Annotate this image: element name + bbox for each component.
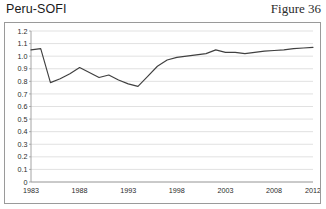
x-axis-tick-label: 2012	[305, 186, 320, 195]
figure-page: Peru-SOFI Figure 36 00.10.20.30.40.50.60…	[0, 0, 326, 209]
x-axis-tick-label: 1988	[72, 186, 88, 195]
x-axis-tick-labels: 1983198819931998200320082012	[23, 186, 320, 195]
x-axis-tick-label: 1998	[169, 186, 185, 195]
figure-header: Peru-SOFI Figure 36	[0, 0, 326, 22]
y-axis-tick-label: 0.9	[18, 64, 28, 73]
x-axis-tick-label: 1993	[120, 186, 136, 195]
series-line	[31, 47, 313, 86]
x-axis-tick-label: 2008	[266, 186, 282, 195]
y-axis-tick-labels: 00.10.20.30.40.50.60.70.80.91.01.11.2	[18, 27, 32, 187]
y-axis-tick-label: 0.8	[18, 77, 28, 86]
y-axis-tick-label: 0.1	[18, 165, 28, 174]
y-axis-tick-label: 0.7	[18, 90, 28, 99]
line-chart: 00.10.20.30.40.50.60.70.80.91.01.11.2 19…	[5, 23, 320, 203]
y-axis-tick-label: 0.6	[18, 102, 28, 111]
page-title: Peru-SOFI	[6, 2, 67, 16]
y-axis-tick-label: 1.1	[18, 39, 28, 48]
y-axis-tick-label: 1.0	[18, 52, 28, 61]
y-axis-tick-label: 1.2	[18, 27, 28, 36]
y-axis-tick-label: 0.2	[18, 152, 28, 161]
grid-lines	[31, 31, 313, 182]
data-series-layer	[31, 47, 313, 86]
x-axis-tick-label: 2003	[217, 186, 233, 195]
y-axis-tick-label: 0.4	[18, 127, 28, 136]
figure-number-label: Figure 36	[271, 1, 321, 17]
chart-frame: 00.10.20.30.40.50.60.70.80.91.01.11.2 19…	[4, 22, 321, 204]
y-axis-tick-label: 0.3	[18, 140, 28, 149]
y-axis-tick-label: 0.5	[18, 115, 28, 124]
x-axis-tick-label: 1983	[23, 186, 39, 195]
